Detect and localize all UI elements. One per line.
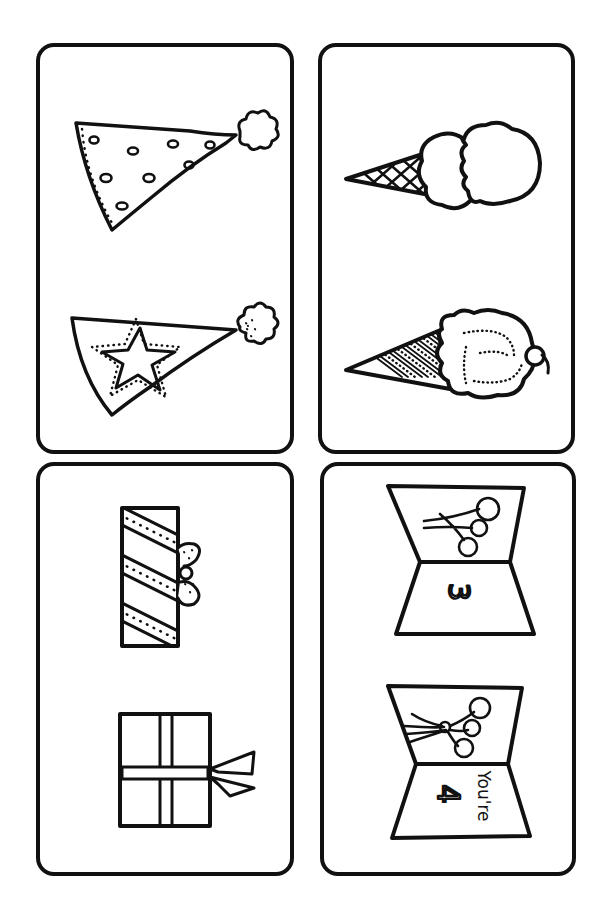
striped-gift-with-bow-icon <box>100 476 230 708</box>
card-number-3: 3 <box>442 583 475 601</box>
ice-cream-art <box>322 47 579 458</box>
gift-boxes-art <box>40 466 298 880</box>
cherry-topped-cone-icon <box>322 310 548 398</box>
star-party-hat-icon <box>72 303 278 415</box>
card-party-hats <box>36 43 294 454</box>
balloons-card-youre-4-icon: 4 You're <box>388 686 530 838</box>
card-number-4: 4 <box>431 784 466 803</box>
card-birthday-cards: 3 4 You're <box>320 462 576 876</box>
party-hats-art <box>40 47 298 458</box>
card-caption-youre: You're <box>474 769 494 821</box>
birthday-cards-art: 3 4 You're <box>324 466 580 880</box>
ribbon-cross-gift-icon <box>120 714 254 826</box>
waffle-cone-ice-cream-icon <box>334 123 540 217</box>
card-gift-boxes <box>36 462 294 876</box>
card-ice-cream-cones <box>318 43 575 454</box>
balloons-card-3-icon: 3 <box>388 486 534 634</box>
polka-dot-party-hat-icon <box>76 111 278 230</box>
